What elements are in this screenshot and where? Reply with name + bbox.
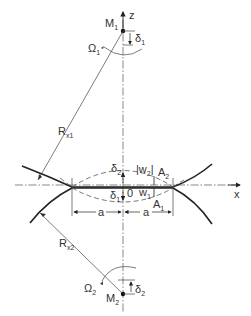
rx2-arrowhead-icon: [40, 213, 46, 217]
half-width-a-right: a: [143, 206, 150, 218]
radius-rx1-line: [38, 31, 123, 180]
radius-rx2-line: [40, 213, 123, 294]
delta2-center-label: δ2: [111, 162, 121, 176]
delta1-center-label: δ1: [110, 189, 120, 203]
point-a2-label: A2: [158, 166, 169, 180]
origin-label: 0: [127, 187, 133, 199]
point-a1-label: A1: [153, 198, 164, 212]
radius-rx1-label: Rx1: [58, 125, 73, 139]
omega1-label: Ω1: [88, 42, 100, 56]
delta1-top-label: δ1: [135, 32, 145, 46]
w2-label: |w2|: [136, 163, 154, 177]
omega2-label: Ω2: [84, 282, 96, 296]
radius-rx2-label: Rx2: [59, 237, 74, 251]
rx1-arrowhead-icon: [38, 174, 42, 180]
contact-diagram: z x M1 δ1 Ω1 Rx1 δ2 δ1 0 |w2| A2 w1 A1 a…: [0, 0, 251, 316]
half-width-a-left: a: [98, 206, 105, 218]
x-axis-label: x: [234, 188, 240, 200]
center-m1-label: M1: [105, 17, 118, 31]
omega2-arrowhead-icon: [100, 281, 103, 285]
delta2-bottom-label: δ2: [135, 283, 145, 297]
omega1-arrowhead-icon: [101, 46, 104, 49]
z-axis-label: z: [129, 9, 135, 21]
lower-body-profile: [30, 188, 212, 224]
center-m2-label: M2: [106, 292, 119, 306]
